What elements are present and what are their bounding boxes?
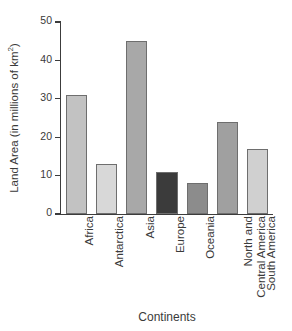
y-axis-title-tail: ) <box>8 43 20 47</box>
bar[interactable] <box>187 183 208 214</box>
bar[interactable] <box>156 172 177 214</box>
y-axis-title-text: Land Area (in millions of km <box>8 52 20 193</box>
x-axis-tick-label: Oceania <box>203 216 217 308</box>
y-axis-tick-label: 50 <box>40 14 52 27</box>
y-axis-tick-label: 0 <box>46 206 52 219</box>
clipped-title-text <box>0 0 292 1</box>
y-axis-tick-label: 40 <box>40 53 52 66</box>
y-axis-tick-label: 30 <box>40 91 52 104</box>
x-axis-tick-label: Asia <box>143 216 157 308</box>
x-axis-tick-label: Antarctica <box>112 216 126 308</box>
x-axis-tick-label: South America <box>264 216 278 308</box>
y-axis-tick-label: 10 <box>40 168 52 181</box>
x-axis-tick-label: Europe <box>173 216 187 308</box>
bar[interactable] <box>247 149 268 214</box>
x-axis-title: Continents <box>61 310 273 325</box>
x-axis-tick-label: Africa <box>82 216 96 308</box>
plot-area: 01020304050 <box>61 22 273 214</box>
bar[interactable] <box>96 164 117 214</box>
bar[interactable] <box>217 122 238 214</box>
y-axis-tick-label: 20 <box>40 130 52 143</box>
y-axis-title: Land Area (in millions of km2) <box>7 22 21 214</box>
y-axis-title-superscript: 2 <box>6 47 15 51</box>
bar[interactable] <box>126 41 147 214</box>
bar[interactable] <box>66 95 87 214</box>
x-axis-tick-labels: AfricaAntarcticaAsiaEuropeOceaniaNorth a… <box>61 216 273 308</box>
bar-series <box>61 22 273 214</box>
bar-chart: Land Area (in millions of km2) 010203040… <box>0 0 292 331</box>
